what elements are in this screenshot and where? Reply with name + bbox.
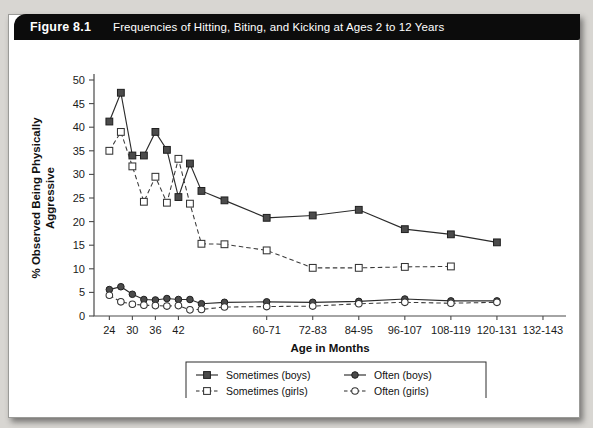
data-marker	[129, 163, 136, 170]
data-marker	[221, 304, 228, 311]
x-tick-label: 30	[126, 324, 138, 336]
data-marker	[141, 302, 148, 309]
series-sometimes-girls	[106, 129, 454, 272]
x-tick-label: 24	[103, 324, 115, 336]
data-marker	[106, 147, 113, 154]
data-marker	[263, 247, 270, 254]
data-marker	[204, 388, 211, 395]
data-marker	[355, 300, 362, 307]
chart-legend: Sometimes (boys)Sometimes (girls)Often (…	[186, 362, 486, 398]
data-marker	[447, 263, 454, 270]
data-marker	[352, 372, 359, 379]
data-marker	[401, 226, 408, 233]
x-tick-label: 108-119	[431, 324, 471, 336]
y-tick-label: 15	[73, 239, 85, 251]
data-marker	[152, 129, 159, 136]
data-marker	[187, 296, 194, 303]
data-marker	[175, 302, 182, 309]
data-marker	[106, 118, 113, 125]
data-marker	[140, 198, 147, 205]
data-marker	[152, 173, 159, 180]
data-marker	[263, 303, 270, 310]
data-marker	[118, 283, 125, 290]
data-marker	[129, 152, 136, 159]
x-axis-title: Age in Months	[290, 342, 369, 354]
x-tick-label: 60-71	[253, 324, 281, 336]
legend-label: Sometimes (girls)	[226, 385, 308, 397]
y-tick-label: 5	[79, 286, 85, 298]
chart-plot-area: 051015202530354045502430364260-7172-8384…	[14, 48, 580, 398]
x-tick-label: 120-131	[477, 324, 517, 336]
line-chart: 051015202530354045502430364260-7172-8384…	[14, 48, 580, 398]
x-tick-label: 96-107	[388, 324, 422, 336]
svg-text:% Observed Being Physically: % Observed Being Physically	[30, 117, 42, 279]
data-marker	[309, 212, 316, 219]
data-marker	[204, 372, 211, 379]
data-marker	[129, 301, 136, 308]
legend-label: Sometimes (boys)	[226, 369, 311, 381]
x-tick-label: 84-95	[345, 324, 373, 336]
y-tick-label: 25	[73, 192, 85, 204]
y-tick-label: 45	[73, 98, 85, 110]
figure-header-bar: Figure 8.1 Frequencies of Hitting, Bitin…	[14, 14, 580, 40]
y-axis-title: % Observed Being PhysicallyAggressive	[30, 117, 56, 279]
y-tick-label: 50	[73, 74, 85, 86]
data-marker	[221, 197, 228, 204]
data-marker	[352, 388, 359, 395]
data-marker	[402, 299, 409, 306]
data-marker	[164, 295, 171, 302]
svg-text:Aggressive: Aggressive	[44, 167, 56, 229]
data-marker	[164, 146, 171, 153]
y-tick-label: 20	[73, 216, 85, 228]
y-tick-label: 30	[73, 168, 85, 180]
data-marker	[263, 214, 270, 221]
data-marker	[106, 292, 113, 299]
data-marker	[447, 231, 454, 238]
y-tick-label: 40	[73, 121, 85, 133]
y-tick-label: 35	[73, 145, 85, 157]
x-tick-label: 132-143	[523, 324, 563, 336]
data-marker	[118, 299, 125, 306]
data-marker	[129, 291, 136, 298]
data-marker	[117, 89, 124, 96]
x-tick-label: 72-83	[299, 324, 327, 336]
data-marker	[355, 264, 362, 271]
figure-caption: Frequencies of Hitting, Biting, and Kick…	[113, 21, 444, 33]
data-marker	[187, 200, 194, 207]
figure-number: Figure 8.1	[30, 20, 91, 34]
data-marker	[164, 303, 171, 310]
data-marker	[198, 188, 205, 195]
data-marker	[401, 264, 408, 271]
data-marker	[152, 302, 159, 309]
data-marker	[164, 199, 171, 206]
data-marker	[494, 299, 501, 306]
data-marker	[309, 303, 316, 310]
y-tick-label: 0	[79, 310, 85, 322]
data-marker	[175, 194, 182, 201]
data-marker	[187, 307, 194, 314]
data-marker	[355, 206, 362, 213]
series-sometimes-boys	[106, 89, 500, 245]
data-marker	[187, 160, 194, 167]
data-marker	[494, 239, 501, 246]
data-marker	[309, 264, 316, 271]
legend-label: Often (girls)	[374, 385, 429, 397]
data-marker	[175, 155, 182, 162]
legend-label: Often (boys)	[374, 369, 432, 381]
data-marker	[140, 152, 147, 159]
data-marker	[198, 306, 205, 313]
data-marker	[448, 300, 455, 307]
data-marker	[117, 129, 124, 136]
figure-page: Figure 8.1 Frequencies of Hitting, Bitin…	[0, 0, 593, 428]
x-tick-label: 42	[172, 324, 184, 336]
data-marker	[175, 296, 182, 303]
x-tick-label: 36	[149, 324, 161, 336]
y-tick-label: 10	[73, 263, 85, 275]
data-marker	[198, 240, 205, 247]
data-marker	[221, 241, 228, 248]
